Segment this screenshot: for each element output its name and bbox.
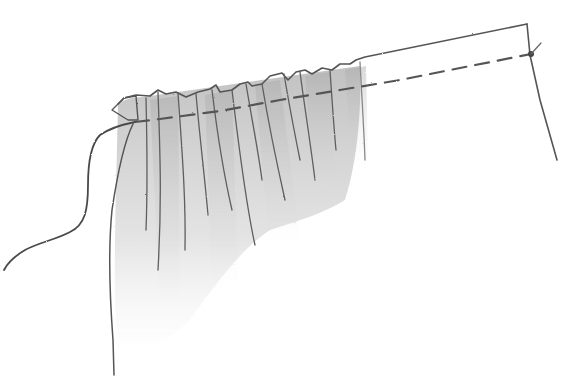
- knot-tail: [531, 43, 541, 54]
- fabric-shading: [115, 66, 368, 351]
- gathering-stitch-illustration: [0, 0, 576, 387]
- fabric-right-edge: [527, 24, 557, 160]
